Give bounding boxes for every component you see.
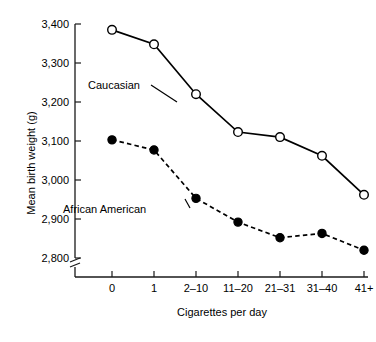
y-axis-title: Mean birth weight (g): [25, 111, 37, 214]
y-tick-label: 3,100: [41, 135, 69, 147]
y-axis-tick-labels: 3,400 3,300 3,200 3,100 3,000 2,900 2,80…: [41, 18, 69, 264]
data-point: [192, 194, 200, 202]
x-axis-title: Cigarettes per day: [177, 306, 267, 318]
y-axis-ticks: [75, 24, 81, 258]
data-point: [234, 218, 242, 226]
leader-line-caucasian: [151, 85, 177, 102]
series-line-caucasian: [112, 30, 364, 195]
annotation-caucasian: Caucasian: [88, 79, 177, 102]
y-axis-break-marker: [70, 258, 80, 277]
chart-figure: Mean birth weight (g) 3,400 3,300 3,200 …: [0, 0, 376, 342]
data-point: [276, 234, 284, 242]
x-axis-ticks: [112, 271, 364, 277]
x-tick-label: 11–20: [223, 282, 253, 294]
y-tick-label: 3,200: [41, 96, 69, 108]
data-point: [318, 229, 326, 237]
birth-weight-line-chart: Mean birth weight (g) 3,400 3,300 3,200 …: [0, 0, 376, 342]
data-point: [192, 90, 201, 99]
data-point: [108, 26, 117, 35]
leader-line-african-american: [185, 199, 190, 208]
data-point: [234, 128, 243, 137]
y-tick-label: 3,000: [41, 174, 69, 186]
data-point: [360, 191, 369, 200]
data-point: [150, 40, 159, 49]
series-label-african-american: African American: [63, 203, 146, 215]
series-african-american: [108, 136, 368, 255]
series-markers-caucasian: [108, 26, 369, 200]
data-point: [108, 136, 116, 144]
x-tick-label: 31–40: [307, 282, 338, 294]
data-point: [360, 246, 368, 254]
x-axis-tick-labels: 0 1 2–10 11–20 21–31 31–40 41+: [109, 282, 373, 294]
x-tick-label: 2–10: [184, 282, 208, 294]
x-tick-label: 1: [151, 282, 157, 294]
data-point: [318, 152, 327, 161]
y-tick-label: 2,800: [41, 252, 69, 264]
series-caucasian: [108, 26, 369, 200]
data-point: [150, 146, 158, 154]
y-tick-label: 3,400: [41, 18, 69, 30]
annotation-african-american: African American: [63, 199, 190, 215]
x-tick-label: 41+: [355, 282, 374, 294]
series-label-caucasian: Caucasian: [88, 79, 140, 91]
data-point: [276, 133, 285, 142]
x-tick-label: 0: [109, 282, 115, 294]
y-tick-label: 3,300: [41, 57, 69, 69]
x-tick-label: 21–31: [265, 282, 296, 294]
